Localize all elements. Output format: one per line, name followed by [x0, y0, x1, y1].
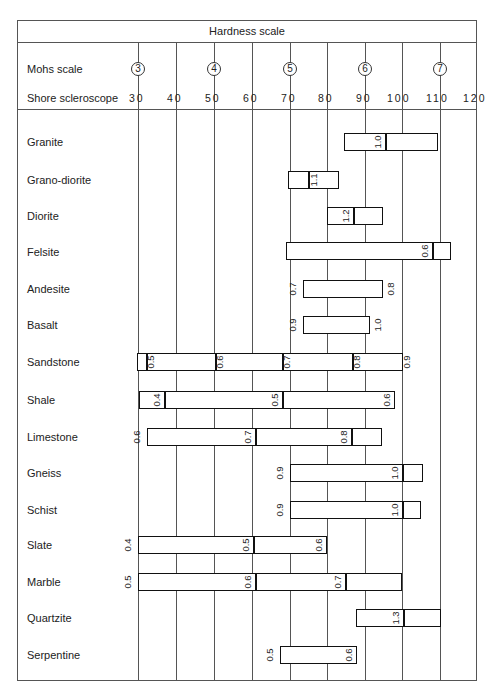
mohs-tick-6: 6	[358, 62, 372, 76]
bar-marble: 0.6 0.7	[138, 573, 402, 591]
chart-title: Hardness scale	[17, 20, 477, 42]
bar-value-label: 0.6	[243, 575, 253, 588]
bar-min-label: 0.4	[123, 538, 133, 551]
bar-min-label: 0.7	[288, 282, 298, 295]
bar-value-label: 0.6	[420, 244, 430, 257]
bar-value-label: 1.2	[341, 209, 351, 222]
bar-basalt	[303, 316, 370, 334]
bar-grano-diorite: 1.1	[288, 171, 339, 189]
bar-min-label: 0.6	[132, 430, 142, 443]
bar-gneiss: 1.0	[290, 464, 423, 482]
header-divider	[17, 109, 477, 110]
row-label-basalt: Basalt	[27, 318, 58, 332]
row-label-quartzite: Quartzite	[27, 611, 72, 625]
mohs-tick-5: 5	[283, 62, 297, 76]
mohs-tick-7: 7	[433, 62, 447, 76]
row-label-limestone: Limestone	[27, 430, 78, 444]
bar-max-label: 0.9	[402, 355, 412, 368]
row-label-marble: Marble	[27, 575, 61, 589]
bar-value-label: 0.7	[243, 430, 253, 443]
mohs-tick-3: 3	[131, 62, 145, 76]
shore-tick-80: 80	[318, 92, 338, 104]
bar-value-label: 1.1	[309, 173, 319, 186]
bar-value-label: 0.6	[382, 393, 392, 406]
bar-value-label: 1.3	[391, 611, 401, 624]
row-label-sandstone: Sandstone	[27, 355, 80, 369]
bar-limestone: 0.7 0.8	[147, 428, 382, 446]
bar-value-label: 0.7	[333, 575, 343, 588]
bar-felsite: 0.6	[286, 242, 451, 260]
row-label-schist: Schist	[27, 503, 57, 517]
row-label-slate: Slate	[27, 538, 52, 552]
bar-value-label: 0.8	[352, 355, 362, 368]
mohs-scale-label: Mohs scale	[27, 62, 83, 76]
bar-value-label: 0.5	[146, 355, 156, 368]
shore-tick-120: 120	[463, 92, 489, 104]
row-label-granite: Granite	[27, 135, 63, 149]
bar-max-label: 0.8	[386, 282, 396, 295]
title-divider	[17, 42, 477, 43]
shore-scale-label: Shore scleroscope	[27, 91, 118, 105]
shore-tick-90: 90	[356, 92, 376, 104]
mohs-tick-4: 4	[207, 62, 221, 76]
row-label-shale: Shale	[27, 393, 55, 407]
bar-min-label: 0.5	[123, 575, 133, 588]
row-label-serpentine: Serpentine	[27, 648, 80, 662]
shore-tick-110: 110	[426, 92, 452, 104]
bar-min-label: 0.9	[288, 318, 298, 331]
bar-quartzite: 1.3	[356, 609, 441, 627]
bar-value-label: 0.5	[270, 393, 280, 406]
row-label-diorite: Diorite	[27, 209, 59, 223]
bar-value-label: 0.8	[339, 430, 349, 443]
shore-tick-100: 100	[387, 92, 413, 104]
row-label-andesite: Andesite	[27, 282, 70, 296]
bar-shale: 0.4 0.5 0.6	[139, 391, 395, 409]
bar-min-label: 0.9	[275, 503, 285, 516]
bar-min-label: 0.9	[275, 466, 285, 479]
bar-value-label: 0.4	[152, 393, 162, 406]
bar-value-label: 1.0	[390, 466, 400, 479]
bar-value-label: 0.6	[314, 538, 324, 551]
shore-tick-40: 40	[167, 92, 187, 104]
bar-sandstone: 0.5 0.6 0.7 0.8	[137, 353, 403, 371]
shore-tick-60: 60	[243, 92, 263, 104]
row-label-grano-diorite: Grano-diorite	[27, 173, 91, 187]
bar-serpentine: 0.6	[280, 646, 357, 664]
bar-granite: 1.0	[344, 133, 438, 151]
bar-value-label: 1.0	[373, 135, 383, 148]
bar-andesite	[303, 280, 383, 298]
hardness-chart: Hardness scale Mohs scale Shore sclerosc…	[0, 0, 499, 694]
bar-diorite: 1.2	[327, 207, 383, 225]
bar-value-label: 0.6	[215, 355, 225, 368]
bar-value-label: 0.6	[344, 648, 354, 661]
row-label-felsite: Felsite	[27, 245, 59, 259]
shore-tick-70: 70	[281, 92, 301, 104]
bar-max-label: 1.0	[373, 318, 383, 331]
bar-value-label: 0.7	[282, 355, 292, 368]
bar-value-label: 0.5	[241, 538, 251, 551]
bar-value-label: 1.0	[390, 503, 400, 516]
bar-min-label: 0.5	[265, 648, 275, 661]
row-label-gneiss: Gneiss	[27, 466, 61, 480]
grid-line-110	[440, 42, 441, 681]
bar-slate: 0.5 0.6	[138, 536, 327, 554]
shore-tick-50: 50	[205, 92, 225, 104]
bar-schist: 1.0	[290, 501, 421, 519]
shore-tick-30: 30	[129, 92, 149, 104]
